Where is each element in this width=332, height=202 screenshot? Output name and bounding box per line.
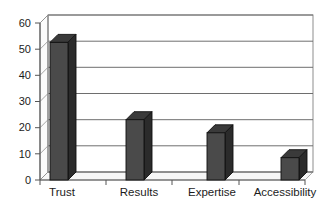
y-tick-label-0: 0 <box>25 174 31 186</box>
y-tick-label-60: 60 <box>19 17 31 29</box>
bar-front-face <box>281 158 299 180</box>
x-axis-labels: Trust Results Expertise Accessibility <box>49 186 316 198</box>
bar-chart: 60 50 40 30 20 10 0 <box>0 0 332 202</box>
bar-front-face <box>50 42 68 180</box>
bar-trust[interactable] <box>50 34 76 180</box>
bar-front-face <box>207 133 225 180</box>
bar-front-face <box>126 120 144 180</box>
y-tick-label-30: 30 <box>19 95 31 107</box>
bar-side-face <box>68 34 76 180</box>
bar-results[interactable] <box>126 112 152 180</box>
x-tick-label-results: Results <box>120 186 159 198</box>
y-tick-label-40: 40 <box>19 69 31 81</box>
y-tick-label-50: 50 <box>19 43 31 55</box>
y-tick-label-10: 10 <box>19 148 31 160</box>
floor-plane <box>40 172 313 180</box>
bar-side-face <box>225 125 233 180</box>
bar-expertise[interactable] <box>207 125 233 180</box>
bar-side-face <box>144 112 152 180</box>
x-tick-label-expertise: Expertise <box>188 186 236 198</box>
bar-accessibility[interactable] <box>281 150 307 180</box>
y-tick-label-20: 20 <box>19 121 31 133</box>
y-axis-labels: 60 50 40 30 20 10 0 <box>19 17 31 186</box>
x-tick-marks <box>40 180 305 185</box>
x-tick-label-trust: Trust <box>49 186 76 198</box>
chart-canvas: 60 50 40 30 20 10 0 <box>0 0 332 202</box>
y-tick-marks <box>35 23 40 180</box>
x-tick-label-accessibility: Accessibility <box>254 186 317 198</box>
